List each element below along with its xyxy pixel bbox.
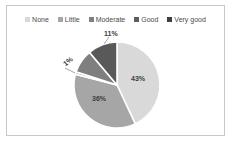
legend-swatch-none — [25, 17, 30, 22]
pie-chart — [7, 28, 226, 135]
legend-label-moderate: Moderate — [96, 16, 126, 23]
chart-frame: None Little Moderate Good Very good — [6, 5, 225, 136]
legend-swatch-very-good — [167, 17, 172, 22]
pie-slices — [74, 42, 160, 128]
chart-legend: None Little Moderate Good Very good — [7, 16, 224, 23]
legend-item-none[interactable]: None — [25, 16, 49, 23]
leader-line-moderate — [65, 68, 75, 73]
legend-swatch-little — [58, 17, 63, 22]
legend-label-little: Little — [65, 16, 80, 23]
data-label-very-good: 11% — [104, 30, 118, 37]
legend-swatch-good — [134, 17, 139, 22]
data-label-little: 36% — [92, 95, 106, 102]
legend-item-very-good[interactable]: Very good — [167, 16, 206, 23]
legend-swatch-moderate — [89, 17, 94, 22]
legend-item-moderate[interactable]: Moderate — [89, 16, 126, 23]
pie-chart-plot-area: 43% 36% 1% 11% — [7, 28, 226, 135]
legend-item-little[interactable]: Little — [58, 16, 80, 23]
legend-label-very-good: Very good — [174, 16, 206, 23]
data-label-none: 43% — [131, 75, 145, 82]
legend-item-good[interactable]: Good — [134, 16, 158, 23]
legend-label-none: None — [32, 16, 49, 23]
legend-label-good: Good — [141, 16, 158, 23]
